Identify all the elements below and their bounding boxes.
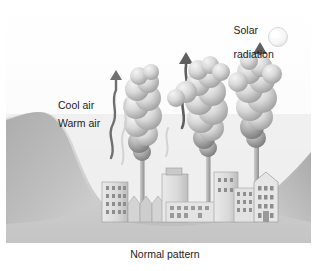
solar-radiation-label: Solar radiation [216, 12, 274, 72]
figure-caption: Normal pattern [0, 248, 330, 260]
illustration-figure: Solar radiation Cool air Warm air Normal… [0, 0, 330, 271]
solar-radiation-line-2: radiation [234, 48, 274, 60]
illustration-panel: Solar radiation [6, 6, 311, 243]
solar-radiation-line-1: Solar [234, 24, 259, 36]
warm-air-label: Warm air [58, 117, 100, 129]
cool-air-label: Cool air [58, 99, 94, 111]
